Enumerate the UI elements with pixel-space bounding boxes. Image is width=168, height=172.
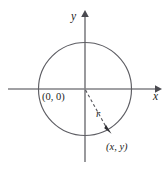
radius-arrowhead-icon — [104, 124, 111, 133]
radius-label: r — [96, 108, 100, 119]
point-coordinate-label: (x, y) — [106, 142, 128, 153]
y-axis-arrowhead-icon — [81, 10, 89, 17]
circle-diagram-canvas — [0, 0, 168, 172]
x-axis-label: x — [153, 91, 158, 103]
y-axis-label: y — [71, 11, 76, 23]
circle-diagram-figure: y x (0, 0) r (x, y) — [0, 0, 168, 172]
origin-label: (0, 0) — [42, 92, 65, 103]
y-axis-group — [81, 10, 89, 162]
